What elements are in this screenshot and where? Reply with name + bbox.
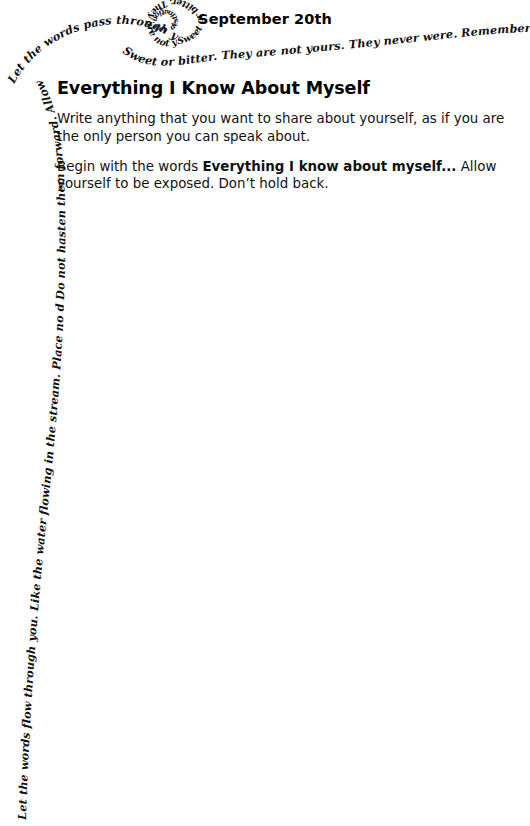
journal-page: Let the words flow through you. Like the… <box>0 0 530 826</box>
writing-area[interactable] <box>57 200 519 800</box>
prompt-instruction-lead: Begin with the words <box>57 159 202 174</box>
page-date-header: September 20th <box>0 11 530 27</box>
prompt-intro-text: Write anything that you want to share ab… <box>57 111 504 144</box>
prompt-content: Everything I Know About Myself Write any… <box>57 78 519 193</box>
prompt-paragraph-intro: Write anything that you want to share ab… <box>57 110 519 146</box>
prompt-instruction-emphasis: Everything I know about myself... <box>202 159 456 174</box>
page-title: Everything I Know About Myself <box>57 78 519 99</box>
prompt-paragraph-instruction: Begin with the words Everything I know a… <box>57 158 519 194</box>
